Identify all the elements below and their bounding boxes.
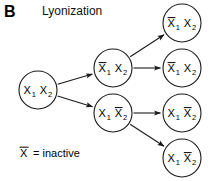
- node-mid-upper[interactable]: X1X2: [94, 49, 132, 87]
- node-leaf-1[interactable]: X1X2: [163, 4, 201, 42]
- allele-subscript: 2: [48, 90, 52, 99]
- node-leaf-4[interactable]: X1X2: [163, 139, 201, 177]
- legend-inactive-key: X = inactive: [19, 144, 105, 164]
- allele-subscript: 1: [176, 113, 180, 122]
- allele-symbol: X: [24, 84, 32, 96]
- node-leaf-3[interactable]: X1X2: [163, 94, 201, 132]
- allele-symbol: X: [99, 62, 107, 74]
- allele-subscript: 1: [32, 90, 36, 99]
- legend-symbol: X: [20, 147, 28, 159]
- allele-subscript: 2: [123, 68, 127, 77]
- edge-mid-upper-to-leaf-1: [130, 35, 164, 57]
- allele-symbol: X: [168, 152, 176, 164]
- allele-subscript: 1: [176, 68, 180, 77]
- allele-subscript: 1: [176, 23, 180, 32]
- figure-panel-b: B Lyonization X1X2X1X2X1X2X1X2X1X2X1X2X1…: [0, 0, 211, 181]
- allele-subscript: 2: [123, 113, 127, 122]
- node-mid-lower[interactable]: X1X2: [94, 94, 132, 132]
- allele-subscript: 2: [192, 113, 196, 122]
- edge-root-to-mid-lower: [58, 96, 93, 107]
- node-leaf-2[interactable]: X1X2: [163, 49, 201, 87]
- allele-symbol: X: [184, 152, 192, 164]
- allele-symbol: X: [184, 62, 192, 74]
- allele-subscript: 1: [107, 68, 111, 77]
- legend-text: = inactive: [33, 147, 80, 159]
- allele-symbol: X: [168, 107, 176, 119]
- allele-symbol: X: [40, 84, 48, 96]
- allele-symbol: X: [115, 62, 123, 74]
- allele-subscript: 1: [176, 158, 180, 167]
- allele-symbol: X: [184, 17, 192, 29]
- allele-subscript: 2: [192, 23, 196, 32]
- allele-subscript: 2: [192, 68, 196, 77]
- allele-symbol: X: [99, 107, 107, 119]
- allele-subscript: 2: [192, 158, 196, 167]
- node-root[interactable]: X1X2: [19, 71, 57, 109]
- allele-subscript: 1: [107, 113, 111, 122]
- allele-symbol: X: [168, 62, 176, 74]
- edge-root-to-mid-upper: [58, 74, 93, 84]
- allele-symbol: X: [168, 17, 176, 29]
- legend-svg: X = inactive: [19, 144, 105, 160]
- allele-symbol: X: [115, 107, 123, 119]
- edge-mid-lower-to-leaf-4: [130, 124, 164, 146]
- allele-symbol: X: [184, 107, 192, 119]
